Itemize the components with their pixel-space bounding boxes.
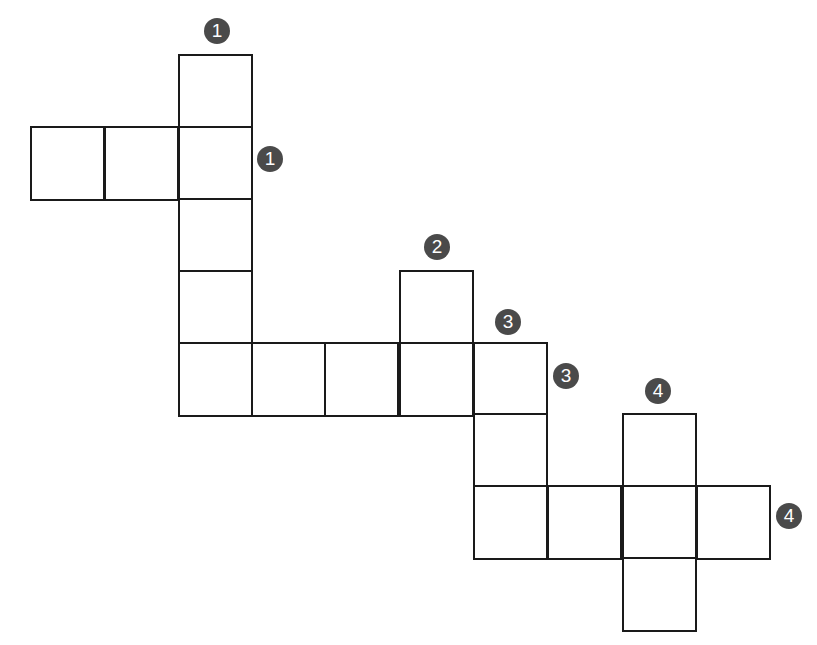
grid-cell[interactable] xyxy=(547,485,622,560)
clue-number-4-down: 4 xyxy=(645,378,671,404)
clue-number-1-down: 1 xyxy=(204,18,230,44)
grid-cell[interactable] xyxy=(178,270,253,345)
grid-cell[interactable] xyxy=(696,485,771,560)
grid-cell[interactable] xyxy=(622,413,697,488)
grid-cell[interactable] xyxy=(473,342,548,417)
grid-cell[interactable] xyxy=(30,126,105,201)
clue-number-3-across: 3 xyxy=(553,363,579,389)
clue-number-1-across: 1 xyxy=(257,146,283,172)
clue-number-3-down: 3 xyxy=(495,309,521,335)
grid-cell[interactable] xyxy=(622,485,697,560)
grid-cell[interactable] xyxy=(178,126,253,201)
clue-number-2-down: 2 xyxy=(424,234,450,260)
grid-cell[interactable] xyxy=(324,342,399,417)
grid-cell[interactable] xyxy=(178,342,253,417)
grid-cell[interactable] xyxy=(399,270,474,345)
grid-cell[interactable] xyxy=(251,342,326,417)
grid-cell[interactable] xyxy=(178,198,253,273)
grid-cell[interactable] xyxy=(178,54,253,129)
grid-cell[interactable] xyxy=(622,557,697,632)
grid-cell[interactable] xyxy=(473,413,548,488)
clue-number-4-across: 4 xyxy=(776,503,802,529)
grid-cell[interactable] xyxy=(104,126,179,201)
grid-cell[interactable] xyxy=(473,485,548,560)
grid-cell[interactable] xyxy=(399,342,474,417)
